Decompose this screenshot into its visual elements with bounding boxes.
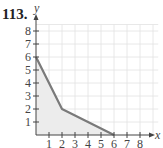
x-axis-label: x <box>154 128 161 142</box>
x-tick-label: 6 <box>111 137 117 148</box>
x-tick-label: 8 <box>137 137 143 148</box>
y-axis-label: y <box>33 1 40 15</box>
chart: 1234567812345678 x y <box>0 0 163 148</box>
y-tick-label: 4 <box>25 76 31 90</box>
y-tick-label: 3 <box>25 89 31 103</box>
y-tick-label: 7 <box>25 37 31 51</box>
y-tick-label: 8 <box>25 24 31 38</box>
x-tick-label: 7 <box>124 137 130 148</box>
x-tick-label: 4 <box>85 137 91 148</box>
y-tick-label: 1 <box>25 115 31 129</box>
y-tick-label: 2 <box>25 102 31 116</box>
x-tick-label: 1 <box>46 137 52 148</box>
x-tick-label: 3 <box>72 137 78 148</box>
x-tick-label: 5 <box>98 137 104 148</box>
y-tick-label: 5 <box>25 63 31 77</box>
y-tick-label: 6 <box>25 50 31 64</box>
x-tick-label: 2 <box>59 137 65 148</box>
